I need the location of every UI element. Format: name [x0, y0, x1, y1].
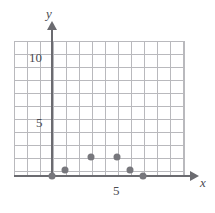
x-axis-arrowhead-icon: [190, 171, 199, 181]
data-point: [49, 173, 56, 180]
x-axis-line: [14, 175, 192, 177]
y-axis-tick-label-5: 5: [36, 115, 43, 131]
data-point: [62, 166, 69, 173]
scatter-plot-figure: y x 10 5 5: [0, 0, 215, 213]
data-point: [88, 153, 95, 160]
x-axis-label: x: [200, 175, 206, 191]
y-axis-label: y: [46, 6, 52, 22]
y-axis-arrowhead-icon: [47, 21, 57, 30]
grid-right-edge: [184, 41, 185, 177]
data-point: [127, 166, 134, 173]
y-axis-line: [51, 29, 53, 177]
x-axis-tick-label-5: 5: [113, 183, 120, 199]
data-point: [114, 153, 121, 160]
data-point: [140, 173, 147, 180]
y-axis-tick-label-10: 10: [29, 50, 42, 66]
